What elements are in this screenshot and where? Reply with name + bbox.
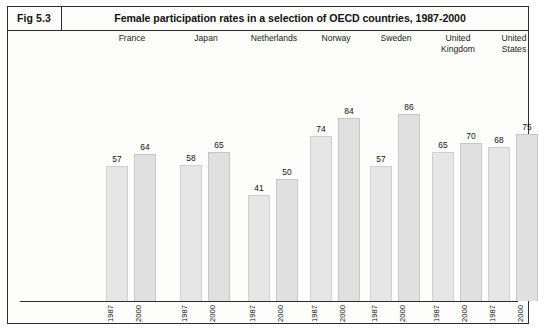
bar-value-label: 41 <box>242 183 276 193</box>
bar-year-label: 1987 <box>310 301 332 322</box>
bar-year-label: 2000 <box>134 301 156 322</box>
bar <box>106 166 128 301</box>
chart-group: UnitedStates681987752000 <box>486 31 539 301</box>
bar <box>338 118 360 301</box>
bar-value-label: 86 <box>392 102 426 112</box>
figure-header: Fig 5.3 Female participation rates in a … <box>8 7 528 31</box>
bar-year-label: 1987 <box>432 301 454 322</box>
bar-value-label: 65 <box>426 140 460 150</box>
bar-value-label: 74 <box>304 124 338 134</box>
bar <box>460 143 482 301</box>
bar-value-label: 75 <box>510 122 539 132</box>
chart-group: Norway741987842000 <box>308 31 364 301</box>
group-bars: 571987862000 <box>368 31 424 301</box>
bar <box>488 147 510 301</box>
chart-group: Sweden571987862000 <box>368 31 424 301</box>
bar-year-label: 1987 <box>370 301 392 322</box>
chart-group: Netherlands411987502000 <box>246 31 302 301</box>
group-bars: 411987502000 <box>246 31 302 301</box>
header-divider <box>61 7 62 31</box>
group-bars: 571987642000 <box>104 31 160 301</box>
bar <box>208 152 230 301</box>
chart-group: France571987642000 <box>104 31 160 301</box>
bar <box>180 165 202 301</box>
bar-year-label: 1987 <box>248 301 270 322</box>
bar <box>310 136 332 301</box>
bar <box>516 134 538 301</box>
chart-plot-area: France571987642000Japan581987652000Nethe… <box>8 31 528 323</box>
group-bars: 681987752000 <box>486 31 539 301</box>
group-bars: 741987842000 <box>308 31 364 301</box>
bar-value-label: 68 <box>482 135 516 145</box>
bar-year-label: 1987 <box>180 301 202 322</box>
figure-panel: Fig 5.3 Female participation rates in a … <box>7 6 529 324</box>
bar-year-label: 1987 <box>106 301 128 322</box>
bar-year-label: 1987 <box>488 301 510 322</box>
bar-value-label: 84 <box>332 106 366 116</box>
bar-value-label: 58 <box>174 153 208 163</box>
bar <box>134 154 156 301</box>
bar-year-label: 2000 <box>398 301 420 322</box>
bar-value-label: 50 <box>270 167 304 177</box>
bar-year-label: 2000 <box>338 301 360 322</box>
figure-title: Female participation rates in a selectio… <box>70 12 524 24</box>
bar-value-label: 57 <box>364 154 398 164</box>
bar-value-label: 57 <box>100 154 134 164</box>
bar-year-label: 2000 <box>276 301 298 322</box>
bar-year-label: 2000 <box>516 301 538 322</box>
bar <box>248 195 270 301</box>
bar-value-label: 65 <box>202 140 236 150</box>
bar <box>276 179 298 301</box>
bar-year-label: 2000 <box>208 301 230 322</box>
bar <box>398 114 420 301</box>
bar <box>370 166 392 301</box>
group-bars: 581987652000 <box>178 31 234 301</box>
chart-group: Japan581987652000 <box>178 31 234 301</box>
figure-number: Fig 5.3 <box>17 12 51 24</box>
bar <box>432 152 454 301</box>
bar-year-label: 2000 <box>460 301 482 322</box>
chart-group: UnitedKingdom651987702000 <box>430 31 486 301</box>
group-bars: 651987702000 <box>430 31 486 301</box>
bar-value-label: 64 <box>128 142 162 152</box>
